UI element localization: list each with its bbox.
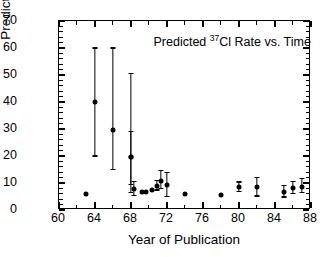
x-tick-major — [238, 21, 239, 27]
x-tick-major — [202, 21, 203, 27]
data-point — [131, 186, 136, 191]
y-tick-minor — [59, 85, 63, 86]
data-point — [219, 193, 224, 198]
y-tick-minor — [306, 53, 310, 54]
y-tick-minor — [306, 199, 310, 200]
y-tick-minor — [306, 31, 310, 32]
error-bar-cap — [300, 178, 305, 179]
y-tick-minor — [59, 123, 63, 124]
y-tick-major — [59, 182, 65, 183]
data-point — [291, 185, 296, 190]
data-point — [149, 188, 154, 193]
y-tick-minor — [306, 188, 310, 189]
x-tick-label: 88 — [290, 212, 330, 225]
error-bar-cap — [111, 169, 116, 170]
error-bar-cap — [111, 47, 116, 48]
data-point — [144, 189, 149, 194]
y-tick-major — [303, 101, 309, 102]
error-bar — [112, 48, 113, 170]
y-tick-minor — [306, 118, 310, 119]
x-tick-major — [94, 202, 95, 208]
y-tick-minor — [59, 112, 63, 113]
y-tick-major — [59, 128, 65, 129]
error-bar-cap — [131, 195, 136, 196]
y-tick-major — [303, 182, 309, 183]
x-tick-minor — [256, 205, 257, 209]
error-bar-cap — [282, 196, 287, 197]
y-tick-minor — [59, 150, 63, 151]
x-tick-label: 72 — [146, 212, 186, 225]
chart-title: Predicted 37Cl Rate vs. Time — [154, 33, 311, 49]
plot-area: Predicted 37Cl Rate vs. Time — [58, 20, 310, 209]
y-tick-minor — [59, 177, 63, 178]
y-tick-minor — [306, 37, 310, 38]
y-tick-minor — [306, 107, 310, 108]
y-tick-minor — [306, 42, 310, 43]
y-tick-major — [59, 20, 65, 21]
x-tick-minor — [112, 205, 113, 209]
error-bar-cap — [282, 185, 287, 186]
x-tick-major — [274, 21, 275, 27]
y-tick-minor — [306, 85, 310, 86]
data-point — [84, 191, 89, 196]
data-point — [165, 182, 170, 187]
x-tick-minor — [256, 21, 257, 25]
y-tick-minor — [306, 177, 310, 178]
x-tick-minor — [184, 205, 185, 209]
y-tick-minor — [59, 118, 63, 119]
data-point — [300, 184, 305, 189]
y-tick-minor — [306, 96, 310, 97]
y-tick-label: 30 — [0, 122, 17, 135]
y-tick-major — [303, 74, 309, 75]
data-point — [129, 155, 134, 160]
x-tick-major — [166, 21, 167, 27]
error-bar-cap — [158, 170, 163, 171]
error-bar-cap — [165, 196, 170, 197]
x-tick-major — [202, 202, 203, 208]
error-bar-cap — [129, 73, 134, 74]
x-tick-label: 84 — [254, 212, 294, 225]
y-tick-major — [59, 74, 65, 75]
y-tick-minor — [59, 134, 63, 135]
x-tick-minor — [184, 21, 185, 25]
y-tick-minor — [59, 96, 63, 97]
x-tick-minor — [220, 205, 221, 209]
y-tick-label: 0 — [0, 203, 17, 216]
y-tick-minor — [306, 150, 310, 151]
data-point — [282, 189, 287, 194]
y-tick-minor — [59, 42, 63, 43]
y-tick-minor — [306, 58, 310, 59]
error-bar-cap — [255, 177, 260, 178]
y-tick-minor — [59, 91, 63, 92]
x-tick-label: 68 — [110, 212, 150, 225]
x-tick-major — [58, 202, 59, 208]
data-point — [237, 185, 242, 190]
error-bar-cap — [93, 47, 98, 48]
y-tick-minor — [306, 166, 310, 167]
error-bar-cap — [291, 193, 296, 194]
x-tick-label: 64 — [74, 212, 114, 225]
y-tick-minor — [306, 26, 310, 27]
x-tick-major — [166, 202, 167, 208]
error-bar-cap — [165, 172, 170, 173]
y-tick-major — [303, 20, 309, 21]
x-tick-minor — [220, 21, 221, 25]
x-tick-label: 60 — [38, 212, 78, 225]
y-tick-minor — [59, 58, 63, 59]
data-point — [255, 185, 260, 190]
y-tick-minor — [59, 139, 63, 140]
y-tick-minor — [306, 145, 310, 146]
x-tick-minor — [292, 21, 293, 25]
chart-figure: Predicted SNU Predicted 37Cl Rate vs. Ti… — [0, 0, 331, 257]
data-point — [93, 100, 98, 105]
y-tick-minor — [59, 172, 63, 173]
y-tick-minor — [59, 37, 63, 38]
x-tick-label: 80 — [218, 212, 258, 225]
error-bar-cap — [155, 189, 160, 190]
y-tick-minor — [59, 166, 63, 167]
x-tick-minor — [76, 21, 77, 25]
y-tick-minor — [306, 193, 310, 194]
x-tick-minor — [148, 21, 149, 25]
x-tick-major — [94, 21, 95, 27]
y-tick-minor — [306, 80, 310, 81]
